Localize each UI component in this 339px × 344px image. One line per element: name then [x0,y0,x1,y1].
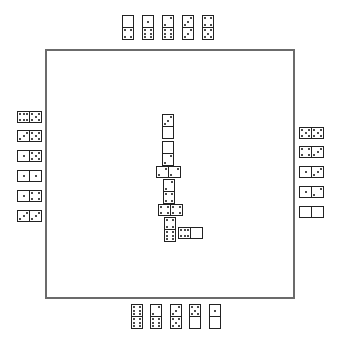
pip-icon [317,151,319,153]
domino-half-2 [163,16,173,27]
pip-icon [165,168,167,170]
pip-icon [167,120,169,122]
pip-icon [167,212,169,214]
domino-half-0 [163,142,173,153]
board-domino-6-0 [178,227,203,239]
pip-icon [19,119,21,121]
bottom-hand-domino-3-5[interactable] [170,304,182,329]
pip-icon [38,212,40,214]
pip-icon [177,168,179,170]
board-domino-0-2 [162,141,174,166]
right-hand-domino-4-3 [299,146,324,158]
pip-icon [164,162,166,164]
pip-icon [171,193,173,195]
pip-icon [144,29,146,31]
pip-icon [180,229,182,231]
domino-half-0 [123,16,133,27]
domino-half-5 [29,151,41,161]
pip-icon [26,212,28,214]
pip-icon [170,174,172,176]
pip-icon [313,135,315,137]
pip-icon [38,138,40,140]
domino-half-3 [183,27,193,39]
domino-half-3 [29,211,41,221]
pip-icon [164,123,166,125]
domino-half-3 [163,115,173,126]
pip-icon [172,313,174,315]
pip-icon [164,24,166,26]
domino-half-3 [311,167,323,177]
pip-icon [301,135,303,137]
pip-icon [19,113,21,115]
pip-icon [144,36,146,38]
right-hand-domino-5-5 [299,127,324,139]
domino-half-5 [190,305,200,316]
pip-icon [165,200,167,202]
pip-icon [170,116,172,118]
pip-icon [31,198,33,200]
top-hand-domino-4-5 [202,15,214,40]
pip-icon [35,175,37,177]
pip-icon [26,132,28,134]
pip-icon [23,119,25,121]
pip-icon [166,226,168,228]
bottom-hand-domino-2-6[interactable] [150,304,162,329]
pip-icon [166,235,168,237]
domino-half-5 [29,112,41,122]
pip-icon [35,116,37,118]
pip-icon [191,313,193,315]
domino-half-1 [18,191,29,201]
pip-icon [178,306,180,308]
left-hand-domino-6-5 [17,111,42,123]
domino-half-1 [210,305,220,316]
pip-icon [190,29,192,31]
domino-half-2 [163,153,173,165]
pip-icon [187,229,189,231]
pip-icon [301,154,303,156]
domino-half-3 [18,131,29,141]
pip-icon [23,113,25,115]
pip-icon [124,29,126,31]
pip-icon [210,36,212,38]
pip-icon [31,192,33,194]
domino-half-4 [300,147,311,157]
domino-half-2 [311,187,323,197]
domino-half-0 [300,207,311,217]
bottom-hand-domino-6-6[interactable] [131,304,143,329]
bottom-hand-domino-5-0[interactable] [189,304,201,329]
pip-icon [38,158,40,160]
pip-icon [172,212,174,214]
pip-icon [170,33,172,35]
domino-half-2 [168,167,180,177]
pip-icon [152,325,154,327]
pip-icon [184,36,186,38]
top-hand-domino-0-4 [122,15,134,40]
left-hand-domino-3-3 [17,210,42,222]
domino-half-1 [300,167,311,177]
pip-icon [152,318,154,320]
domino-half-3 [171,305,181,316]
domino-half-0 [190,228,202,238]
pip-icon [210,29,212,31]
pip-icon [190,17,192,19]
domino-half-6 [163,27,173,39]
domino-half-1 [18,171,29,181]
pip-icon [305,171,307,173]
pip-icon [139,318,141,320]
domino-half-5 [203,27,213,39]
pip-icon [204,29,206,31]
domino-half-6 [179,228,190,238]
pip-icon [317,171,319,173]
pip-icon [187,33,189,35]
domino-half-4 [170,205,182,215]
board-domino-2-4 [163,179,175,204]
domino-half-3 [18,211,29,221]
domino-half-6 [151,316,161,328]
pip-icon [133,325,135,327]
pip-icon [23,135,25,137]
pip-icon [320,168,322,170]
domino-half-5 [29,131,41,141]
domino-half-3 [311,147,323,157]
bottom-hand-domino-1-0[interactable] [209,304,221,329]
pip-icon [23,195,25,197]
